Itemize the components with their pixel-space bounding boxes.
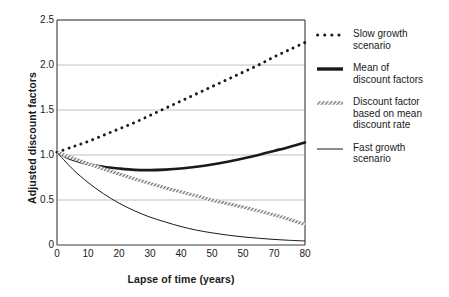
legend-label: Fast growth scenario — [353, 142, 405, 165]
series-line — [57, 152, 305, 224]
legend-label: Discount factor based on mean discount r… — [353, 96, 422, 131]
thick-bar-swatch — [316, 62, 344, 76]
legend-item: Slow growth scenario — [316, 28, 449, 51]
chart-legend: Slow growth scenarioMean of discount fac… — [316, 28, 449, 176]
series-line — [57, 43, 305, 153]
legend-item: Mean of discount factors — [316, 62, 449, 85]
thin-line-swatch — [316, 142, 344, 156]
legend-item: Discount factor based on mean discount r… — [316, 96, 449, 131]
chart-figure: Adjusted discount factors Lapse of time … — [0, 0, 449, 297]
hatched-swatch — [316, 96, 344, 110]
legend-label: Slow growth scenario — [353, 28, 407, 51]
legend-label: Mean of discount factors — [353, 62, 423, 85]
legend-item: Fast growth scenario — [316, 142, 449, 165]
dotted-swatch — [316, 28, 344, 42]
